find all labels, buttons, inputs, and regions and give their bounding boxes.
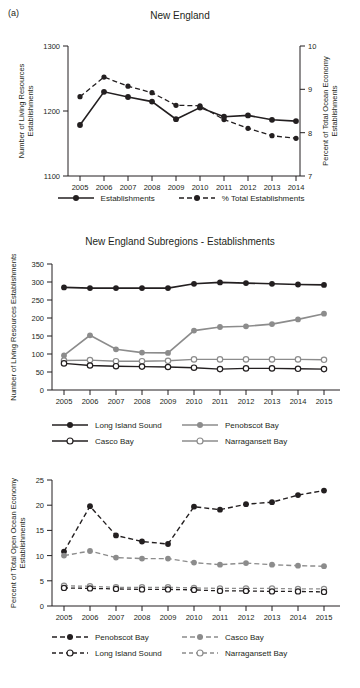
legend-label-establishments: Establishments	[101, 194, 155, 203]
panel-b-xtick-9: 2014	[290, 397, 307, 406]
panel-a-rytick-2: 9	[308, 85, 312, 94]
panel-a-xtick-6: 2011	[216, 183, 232, 192]
panel-b-ytick-2: 100	[31, 350, 44, 359]
panel-c-xtick-7: 2012	[238, 613, 255, 622]
panel-b-xtick-7: 2012	[238, 397, 255, 406]
legend-key-solid-gray-circle-icon	[180, 420, 220, 430]
panel-b-ytick-1: 50	[36, 368, 44, 377]
panel-c-ytick-4: 20	[36, 501, 44, 510]
panel-c-series-casco-bay	[61, 548, 327, 569]
panel-a-xtick-1: 2006	[96, 183, 113, 192]
panel-a-xtick-9: 2014	[288, 183, 305, 192]
panel-a-xtick-7: 2012	[240, 183, 257, 192]
panel-a-rytick-0: 7	[308, 172, 312, 181]
panel-c-ytick-5: 25	[36, 476, 44, 485]
panel-b-ytick-5: 250	[31, 296, 44, 305]
panel-a-rylabel-line1: Percent of Total Ocean Economy	[321, 56, 330, 166]
legend-key-solid-circle-icon	[56, 193, 96, 203]
panel-b-xtick-0: 2005	[56, 397, 73, 406]
panel-c-ylabel-line2: Establishments	[18, 517, 27, 568]
panel-a-ylabel-line2: Establishments	[26, 85, 35, 136]
panel-b-series-narragansett-bay	[61, 357, 326, 364]
legend-item-establishments: Establishments	[56, 193, 155, 203]
panel-a-series-establishments	[77, 89, 299, 128]
panel-c-legend: Penobscot Bay Casco Bay Long Islan	[0, 632, 360, 658]
legend-label-pct-total: % Total Establishments	[222, 194, 305, 203]
legend-item-c-long-island-sound: Long Island Sound	[50, 648, 180, 658]
panel-a-ytick-1: 1200	[43, 107, 60, 116]
legend-item-casco-bay: Casco Bay	[50, 436, 180, 446]
panel-c: 0 5 10 15 20 25 2005 2006 2007 2008 2009…	[0, 466, 360, 688]
legend-key-dashed-gray-circle-icon	[180, 632, 220, 642]
legend-item-c-narragansett-bay: Narragansett Bay	[180, 648, 310, 658]
panel-a-rytick-3: 10	[308, 42, 316, 51]
legend-label-c-long-island-sound: Long Island Sound	[95, 649, 162, 658]
panel-a-rylabel-line2: Establishments	[330, 85, 339, 136]
legend-label-c-narragansett-bay: Narragansett Bay	[225, 649, 287, 658]
legend-item-c-penobscot-bay: Penobscot Bay	[50, 632, 180, 642]
panel-a-ytick-2: 1300	[43, 42, 60, 51]
panel-b-series-penobscot-bay	[61, 311, 327, 359]
legend-item-c-casco-bay: Casco Bay	[180, 632, 310, 642]
legend-key-dashed-black-circle-icon	[50, 632, 90, 642]
panel-b-xtick-6: 2011	[212, 397, 228, 406]
legend-label-casco-bay: Casco Bay	[95, 437, 134, 446]
panel-b-plot: 0 50 100 150 200 250 300 350 2005 2006 2…	[0, 254, 360, 439]
panel-c-xtick-9: 2014	[290, 613, 307, 622]
figure-container: (a) New England 1300 1200 1100 10 9 8 7	[0, 0, 360, 688]
panel-b-title: New England Subregions - Establishments	[0, 236, 360, 247]
panel-b-xtick-8: 2013	[264, 397, 281, 406]
panel-b-ytick-6: 300	[31, 278, 44, 287]
panel-c-ytick-3: 15	[36, 526, 44, 535]
panel-c-xtick-6: 2011	[212, 613, 228, 622]
panel-c-xtick-0: 2005	[56, 613, 73, 622]
panel-b-xtick-5: 2010	[186, 397, 203, 406]
panel-c-ylabel-line1: Percent of Total Open Ocean Economy	[9, 478, 18, 608]
legend-key-dashed-black-open-circle-icon	[50, 648, 90, 658]
panel-b-ylabel-line1: Number of Living Resources Establishment…	[9, 254, 18, 401]
legend-label-c-casco-bay: Casco Bay	[225, 633, 264, 642]
panel-a-xtick-4: 2009	[168, 183, 185, 192]
panel-b-legend: Long Island Sound Penobscot Bay Ca	[0, 420, 360, 446]
legend-item-penobscot-bay: Penobscot Bay	[180, 420, 310, 430]
legend-item-pct-total: % Total Establishments	[177, 193, 305, 203]
panel-a-xtick-8: 2013	[264, 183, 281, 192]
panel-c-xtick-4: 2009	[160, 613, 177, 622]
panel-c-xtick-1: 2006	[82, 613, 99, 622]
panel-a-xtick-5: 2010	[192, 183, 209, 192]
panel-a-legend: Establishments % Total Establishments	[0, 193, 360, 203]
panel-b-xtick-4: 2009	[160, 397, 177, 406]
legend-key-dashed-circle-icon	[177, 193, 217, 203]
panel-a-rytick-1: 8	[308, 129, 312, 138]
panel-a: (a) New England 1300 1200 1100 10 9 8 7	[0, 0, 360, 225]
legend-item-long-island-sound: Long Island Sound	[50, 420, 180, 430]
panel-b-ytick-3: 150	[31, 332, 44, 341]
legend-key-solid-black-open-circle-icon	[50, 436, 90, 446]
panel-a-xtick-3: 2008	[144, 183, 161, 192]
panel-c-plot: 0 5 10 15 20 25 2005 2006 2007 2008 2009…	[0, 472, 360, 642]
legend-key-solid-gray-open-circle-icon	[180, 436, 220, 446]
panel-c-xtick-8: 2013	[264, 613, 281, 622]
panel-b-xtick-2: 2007	[108, 397, 125, 406]
panel-c-xtick-2: 2007	[108, 613, 125, 622]
panel-c-series-penobscot-bay	[61, 488, 327, 555]
panel-b: New England Subregions - Establishments …	[0, 230, 360, 462]
panel-b-ytick-4: 200	[31, 314, 44, 323]
legend-item-narragansett-bay: Narragansett Bay	[180, 436, 310, 446]
legend-label-narragansett-bay: Narragansett Bay	[225, 437, 287, 446]
panel-b-xtick-3: 2008	[134, 397, 151, 406]
panel-a-ylabel-line1: Number of Living Resources	[17, 63, 26, 158]
panel-b-xtick-10: 2015	[316, 397, 333, 406]
panel-c-xtick-10: 2015	[316, 613, 333, 622]
panel-c-xtick-3: 2008	[134, 613, 151, 622]
panel-a-title: New England	[0, 10, 360, 21]
panel-a-xtick-2: 2007	[120, 183, 137, 192]
legend-key-dashed-gray-open-circle-icon	[180, 648, 220, 658]
legend-label-long-island-sound: Long Island Sound	[95, 421, 162, 430]
panel-c-ytick-0: 0	[40, 602, 44, 611]
panel-c-ytick-2: 10	[36, 552, 44, 561]
panel-b-xtick-1: 2006	[82, 397, 99, 406]
panel-a-xtick-0: 2005	[72, 183, 89, 192]
panel-c-ytick-1: 5	[40, 577, 44, 586]
legend-label-c-penobscot-bay: Penobscot Bay	[95, 633, 149, 642]
